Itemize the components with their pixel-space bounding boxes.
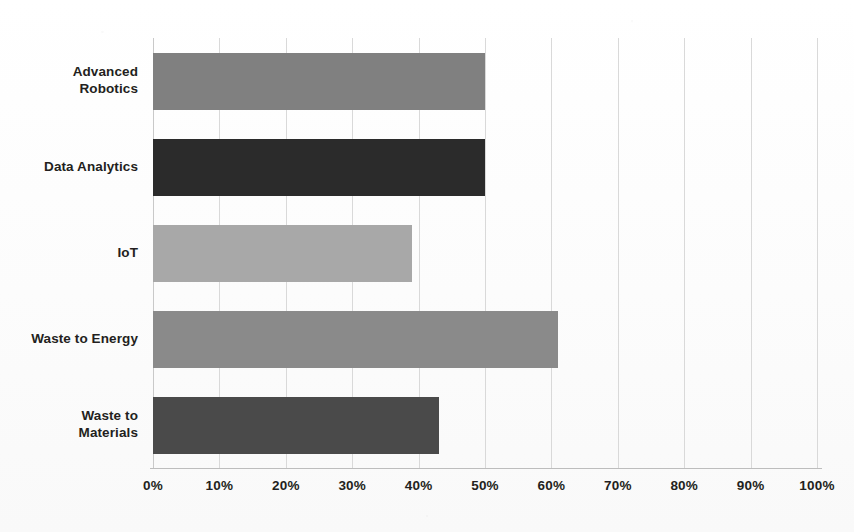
category-label-waste-to-energy: Waste to Energy xyxy=(0,331,138,348)
category-label-waste-to-materials: Waste to Materials xyxy=(0,408,138,442)
bar-waste-to-materials xyxy=(153,397,439,454)
category-label-iot: IoT xyxy=(0,245,138,262)
x-tick-label-20pct: 20% xyxy=(272,478,300,493)
axis-baseline xyxy=(150,468,822,469)
category-label-data-analytics: Data Analytics xyxy=(0,159,138,176)
category-axis: Advanced RoboticsData AnalyticsIoTWaste … xyxy=(0,38,146,468)
x-tick-label-90pct: 90% xyxy=(737,478,765,493)
value-axis: 0%10%20%30%40%50%60%70%80%90%100% xyxy=(153,478,817,504)
bar-chart: Advanced RoboticsData AnalyticsIoTWaste … xyxy=(0,0,854,532)
plot-area xyxy=(153,38,817,468)
x-tick-label-70pct: 70% xyxy=(604,478,632,493)
bar-data-analytics xyxy=(153,139,485,196)
x-tick-label-100pct: 100% xyxy=(799,478,834,493)
category-label-advanced-robotics: Advanced Robotics xyxy=(0,64,138,98)
x-tick-label-50pct: 50% xyxy=(471,478,499,493)
gridline-100pct xyxy=(817,38,818,468)
x-tick-label-0pct: 0% xyxy=(143,478,163,493)
bar-iot xyxy=(153,225,412,282)
x-tick-label-40pct: 40% xyxy=(405,478,433,493)
bar-advanced-robotics xyxy=(153,53,485,110)
x-tick-label-80pct: 80% xyxy=(670,478,698,493)
x-tick-label-60pct: 60% xyxy=(538,478,566,493)
x-tick-label-10pct: 10% xyxy=(206,478,234,493)
bar-waste-to-energy xyxy=(153,311,558,368)
x-tick-label-30pct: 30% xyxy=(338,478,366,493)
bar-series xyxy=(153,38,817,468)
